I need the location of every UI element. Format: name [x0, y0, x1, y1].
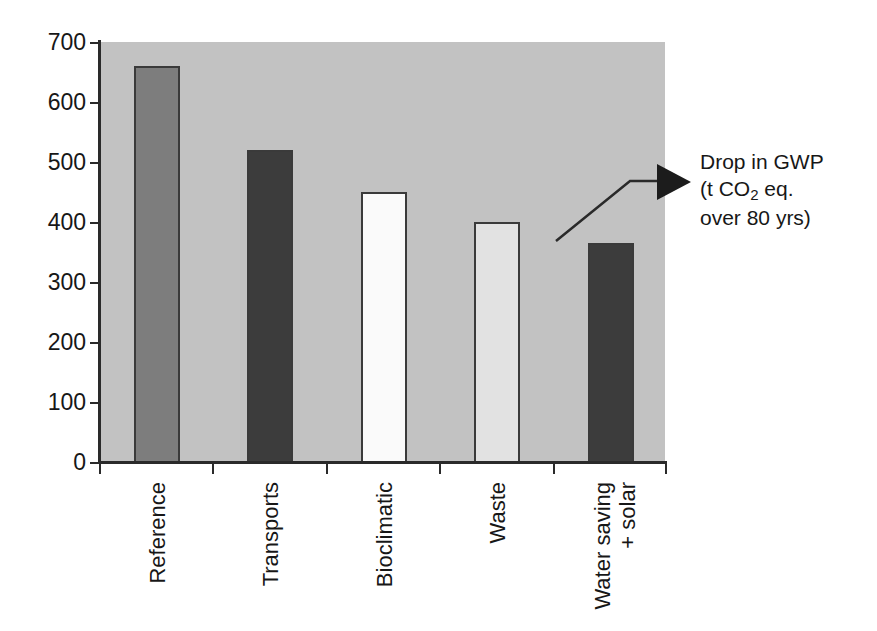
y-tick-label-500: 500 — [30, 151, 86, 174]
bar-bioclimatic[interactable] — [361, 192, 407, 464]
y-tick-label-200: 200 — [30, 331, 86, 354]
y-tick-label-0: 0 — [30, 451, 86, 474]
x-tick-2 — [326, 463, 328, 474]
bar-waste[interactable] — [474, 222, 520, 464]
y-tick-400 — [90, 222, 99, 224]
x-axis-label-bioclimatic: Bioclimatic — [374, 482, 394, 631]
x-tick-1 — [212, 463, 214, 474]
y-tick-label-600: 600 — [30, 91, 86, 114]
y-tick-label-100: 100 — [30, 391, 86, 414]
y-tick-300 — [90, 282, 99, 284]
x-axis-label-water-saving-solar: Water saving + solar — [592, 482, 638, 631]
annotation-line-1: Drop in GWP — [700, 148, 875, 175]
x-axis-line — [98, 461, 667, 464]
x-tick-0 — [99, 463, 101, 474]
x-axis-label-water-saving-line1: Water saving — [590, 482, 615, 610]
bar-reference[interactable] — [134, 66, 180, 464]
annotation-line-2: (t CO2 eq. — [700, 175, 875, 204]
x-tick-5 — [665, 463, 667, 474]
bar-chart-figure: 700 600 500 400 300 200 100 0 Reference … — [0, 0, 877, 631]
y-tick-label-700: 700 — [30, 31, 86, 54]
annotation-line-2-pre: (t CO — [700, 177, 750, 200]
annotation-arrow-icon — [657, 164, 691, 200]
x-axis-label-transports-text: Transports — [258, 482, 283, 586]
y-tick-700 — [90, 42, 99, 44]
y-tick-600 — [90, 102, 99, 104]
x-axis-label-reference: Reference — [147, 482, 167, 631]
y-tick-100 — [90, 402, 99, 404]
annotation-line-3: over 80 yrs) — [700, 204, 875, 231]
x-axis-label-reference-text: Reference — [145, 482, 170, 584]
y-tick-label-300: 300 — [30, 271, 86, 294]
x-tick-4 — [553, 463, 555, 474]
y-tick-200 — [90, 342, 99, 344]
x-axis-label-water-saving-line2: + solar — [615, 482, 640, 610]
bar-transports[interactable] — [247, 150, 293, 464]
x-axis-label-waste-text: Waste — [485, 482, 510, 544]
x-axis-label-transports: Transports — [260, 482, 280, 631]
y-tick-label-400: 400 — [30, 211, 86, 234]
bar-water-saving-solar[interactable] — [588, 243, 634, 464]
x-axis-label-bioclimatic-text: Bioclimatic — [372, 482, 397, 587]
x-tick-3 — [439, 463, 441, 474]
annotation-text: Drop in GWP (t CO2 eq. over 80 yrs) — [700, 148, 875, 231]
annotation-line-2-subscript: 2 — [750, 186, 758, 203]
x-axis-label-waste: Waste — [487, 482, 507, 631]
y-tick-0 — [90, 462, 99, 464]
annotation-line-2-post: eq. — [759, 177, 794, 200]
y-tick-500 — [90, 162, 99, 164]
